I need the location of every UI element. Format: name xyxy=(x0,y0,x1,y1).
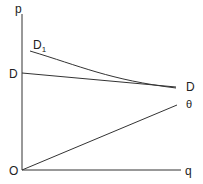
d-right-label: D xyxy=(186,81,195,93)
x-axis-label: q xyxy=(185,165,192,177)
origin-label: O xyxy=(9,165,18,177)
diagram-canvas xyxy=(0,0,203,184)
d1-label-main: D xyxy=(33,38,42,52)
demand-curve-d1 xyxy=(30,51,176,88)
d-left-label: D xyxy=(9,68,18,80)
y-axis-label: p xyxy=(15,3,22,15)
theta-line xyxy=(22,105,177,170)
d1-label: D1 xyxy=(33,39,46,54)
d1-label-subscript: 1 xyxy=(42,45,46,54)
theta-label: θ xyxy=(186,99,192,110)
